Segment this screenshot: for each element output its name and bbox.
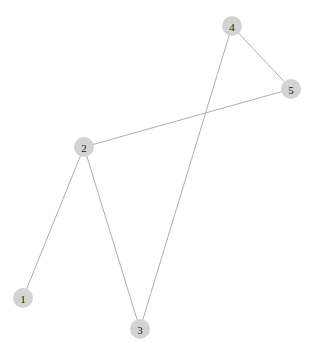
graph-node-1[interactable]: 1	[13, 288, 33, 308]
node-layer: 12345	[13, 16, 301, 339]
graph-drawing: 12345	[0, 0, 315, 353]
graph-node-label-2: 2	[81, 142, 87, 154]
graph-node-3[interactable]: 3	[130, 319, 150, 339]
graph-node-label-4: 4	[229, 21, 235, 33]
graph-edge-3-4	[140, 26, 232, 329]
graph-edge-1-2	[23, 147, 84, 298]
graph-node-label-3: 3	[137, 324, 143, 336]
graph-node-2[interactable]: 2	[74, 137, 94, 157]
graph-node-5[interactable]: 5	[281, 79, 301, 99]
graph-edge-2-5	[84, 89, 291, 147]
graph-edge-2-3	[84, 147, 140, 329]
graph-node-label-1: 1	[20, 293, 26, 305]
graph-canvas: 12345	[0, 0, 315, 353]
graph-edge-4-5	[232, 26, 291, 89]
edge-layer	[23, 26, 291, 329]
graph-node-4[interactable]: 4	[222, 16, 242, 36]
graph-node-label-5: 5	[288, 84, 294, 96]
